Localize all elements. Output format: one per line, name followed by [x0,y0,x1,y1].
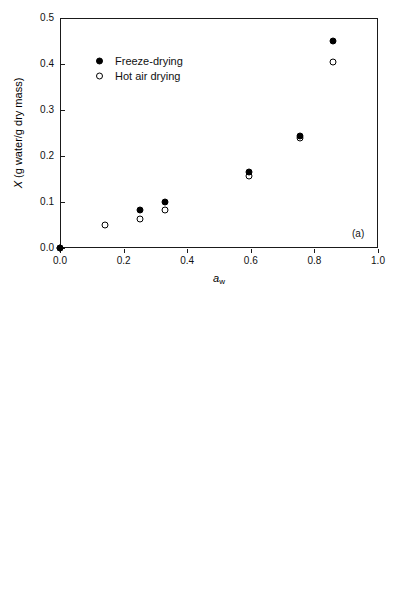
x-tick [187,249,188,253]
x-tick-label: 0.8 [307,256,321,266]
figure-sorption-isotherms: 0.00.20.40.60.81.00.00.10.20.30.40.5 aw … [0,0,409,603]
chart-panel-a: 0.00.20.40.60.81.00.00.10.20.30.40.5 aw … [0,0,409,300]
y-tick-label: 0.1 [18,197,54,207]
data-point-freeze-drying [330,38,337,45]
x-tick-label: 1.0 [371,256,385,266]
x-tick [378,249,379,253]
open-circle-icon [96,72,103,79]
data-point-freeze-drying [161,198,168,205]
data-point-freeze-drying [57,245,64,252]
y-tick [61,202,65,203]
y-tick [61,110,65,111]
panel-label-a: (a) [352,228,364,239]
data-point-freeze-drying [136,207,143,214]
y-tick [61,18,65,19]
x-axis-title-a: aw [213,272,225,286]
x-tick [124,249,125,253]
y-tick [61,156,65,157]
legend-label-hot-air-drying: Hot air drying [115,70,180,82]
data-point-freeze-drying [246,169,253,176]
y-axis-title-a: X (g water/g dry mass) [12,78,24,189]
data-point-hot-air-drying [136,216,143,223]
data-point-hot-air-drying [161,207,168,214]
y-tick-label: 0.0 [18,243,54,253]
data-point-hot-air-drying [330,59,337,66]
data-point-freeze-drying [297,132,304,139]
legend-label-freeze-drying: Freeze-drying [115,55,183,67]
x-tick [251,249,252,253]
filled-circle-icon [96,57,103,64]
chart-panel-b: 0.00.20.40.60.80.000.050.100.150.200.250… [0,300,409,603]
y-tick [61,64,65,65]
x-tick-label: 0.2 [117,256,131,266]
x-tick-label: 0.0 [53,256,67,266]
data-point-hot-air-drying [101,222,108,229]
y-tick-label: 0.4 [18,59,54,69]
y-tick-label: 0.5 [18,13,54,23]
plot-area-a [60,18,378,248]
x-tick [314,249,315,253]
x-tick-label: 0.6 [244,256,258,266]
x-tick-label: 0.4 [180,256,194,266]
